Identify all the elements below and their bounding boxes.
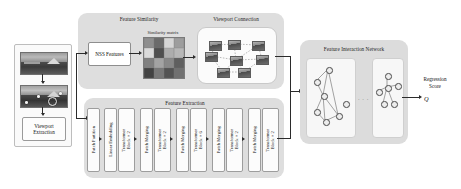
fin-node (314, 109, 321, 116)
fin-graph-card-right (372, 58, 404, 138)
viewport-extraction-label: Viewport Extraction (22, 117, 66, 141)
fin-node (343, 101, 350, 108)
similarity-matrix-cell-3-2 (164, 68, 174, 78)
feature-interaction-network-title: Feature Interaction Network (306, 46, 402, 52)
viewport-connection-card (197, 27, 277, 84)
viewport-connection-title: Viewport Connection (192, 16, 280, 22)
image-peak-highlight (47, 58, 60, 64)
feature-block-transformer-5: Transformer Block × 2 (262, 108, 279, 172)
feature-block-linear-embedding: Linear Embedding (104, 108, 117, 172)
viewport-to-merge-line (275, 56, 291, 57)
nss-to-matrix-arrowhead (139, 51, 142, 55)
feature-block-patch-merging-4: Patch Merging (248, 108, 261, 172)
similarity-matrix-cell-3-0 (144, 68, 154, 78)
feature-block-patch-merging-3: Patch Merging (212, 108, 225, 172)
similarity-matrix-label: Similarity matrix (138, 30, 188, 35)
viewport-marker-dot (25, 101, 28, 104)
feature-block-label: Linear Embedding (108, 123, 113, 157)
viewport-marker-circle (48, 97, 57, 106)
fin-node (395, 83, 402, 90)
similarity-matrix (143, 37, 185, 79)
viewport-node (252, 41, 265, 51)
feature-block-label: Transformer Block × 2 (265, 129, 276, 152)
fin-graph-right-edges (373, 59, 403, 137)
diagram-canvas: Feature Similarity Viewport Connection F… (0, 0, 461, 189)
extraction-arrowhead (134, 137, 137, 141)
feature-block-transformer-1: Transformer Block × 2 (118, 108, 135, 172)
viewport-node (217, 68, 230, 78)
panorama-viewport-image (20, 85, 68, 108)
quality-score-symbol: Q (424, 95, 429, 102)
fin-node (323, 119, 330, 126)
feature-block-label: Transformer Block × 2 (157, 129, 168, 152)
nss-features-label: NSS Features (95, 51, 123, 57)
viewport-marker-dot (37, 95, 40, 98)
extraction-to-merge-line (277, 138, 291, 139)
input-connector-line (42, 74, 43, 81)
feature-block-label: Transformer Block × 2 (121, 129, 132, 152)
input-bus-vertical (76, 53, 77, 119)
similarity-matrix-cell-0-2 (164, 38, 174, 48)
fin-node (321, 93, 328, 100)
regression-score-label: Regression Score (412, 76, 458, 89)
viewport-extraction-panel: Viewport Extraction (14, 44, 72, 147)
feature-block-transformer-2: Transformer Block × 2 (154, 108, 171, 172)
viewport-node (256, 55, 269, 65)
similarity-matrix-cell-3-1 (154, 68, 164, 78)
feature-block-label: Transformer Block × 2 (229, 129, 240, 152)
fin-to-output-arrowhead (419, 95, 422, 99)
matrix-to-viewport-line (183, 57, 193, 58)
similarity-matrix-cell-0-3 (174, 38, 184, 48)
feature-block-label: Patch Merging (144, 126, 149, 153)
fin-ellipsis: · · · (358, 97, 369, 102)
feature-block-label: Patch Merging (216, 126, 221, 153)
feature-block-label: Patch Merging (180, 126, 185, 153)
fin-node (385, 73, 392, 80)
feature-block-label: Transformer Block × 6 (193, 129, 204, 152)
feature-block-label: Patch Merging (252, 126, 257, 153)
viewport-marker-dot (59, 92, 62, 95)
fin-node (381, 101, 388, 108)
image-sky-region (21, 53, 67, 62)
extraction-arrowhead (206, 137, 209, 141)
fin-node (314, 79, 321, 86)
fin-graph-card-left (306, 58, 356, 138)
panorama-source-image (20, 52, 68, 75)
feature-block-patch-merging-2: Patch Merging (176, 108, 189, 172)
similarity-matrix-cell-2-2 (164, 58, 174, 68)
feature-block-transformer-3: Transformer Block × 6 (190, 108, 207, 172)
viewport-node (209, 41, 222, 51)
similarity-matrix-cell-1-1 (154, 48, 164, 58)
similarity-matrix-cell-0-0 (144, 38, 154, 48)
similarity-matrix-cell-2-1 (154, 58, 164, 68)
similarity-matrix-cell-2-3 (174, 58, 184, 68)
viewport-extraction-connector-arrowhead (41, 113, 45, 116)
input-connector-arrowhead (41, 81, 45, 84)
feature-block-transformer-4: Transformer Block × 2 (226, 108, 243, 172)
viewport-node (238, 68, 251, 78)
fin-node (385, 85, 392, 92)
viewport-node (205, 52, 218, 62)
extraction-arrowhead (242, 137, 245, 141)
nss-features-box: NSS Features (88, 42, 131, 66)
similarity-matrix-cell-1-2 (164, 48, 174, 58)
input-bus-to-extraction (76, 118, 86, 119)
image-land-region (21, 95, 67, 107)
similarity-matrix-cell-3-3 (174, 68, 184, 78)
similarity-matrix-cell-1-0 (144, 48, 154, 58)
fin-node (376, 89, 383, 96)
fin-node (391, 101, 398, 108)
feature-similarity-title: Feature Similarity (96, 16, 182, 22)
similarity-matrix-cell-2-0 (144, 58, 154, 68)
image-ridge-highlight (24, 62, 40, 64)
extraction-arrowhead (170, 137, 173, 141)
viewport-node (230, 56, 243, 66)
viewport-node (228, 40, 241, 50)
nss-to-matrix-line (129, 53, 139, 54)
feature-extraction-title: Feature Extraction (140, 100, 230, 106)
similarity-matrix-cell-0-1 (154, 38, 164, 48)
fin-node (336, 113, 343, 120)
extraction-arrowhead (99, 137, 102, 141)
feature-block-patch-merging-1: Patch Merging (140, 108, 153, 172)
merge-bus-vertical (290, 56, 291, 139)
